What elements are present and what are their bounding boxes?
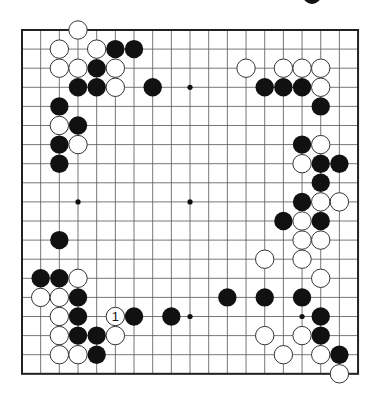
black-stone bbox=[312, 307, 330, 325]
white-stone bbox=[69, 21, 87, 39]
black-stone bbox=[274, 78, 292, 96]
white-stone bbox=[69, 135, 87, 153]
black-stone bbox=[312, 174, 330, 192]
white-stone bbox=[293, 155, 311, 173]
black-stone bbox=[330, 155, 348, 173]
black-stone bbox=[312, 212, 330, 230]
white-stone bbox=[256, 250, 274, 268]
black-stone bbox=[87, 78, 105, 96]
black-stone bbox=[69, 326, 87, 344]
black-stone bbox=[87, 346, 105, 364]
white-stone bbox=[256, 326, 274, 344]
black-stone bbox=[293, 135, 311, 153]
white-stone bbox=[293, 326, 311, 344]
black-stone bbox=[256, 78, 274, 96]
black-stone bbox=[69, 307, 87, 325]
black-stone bbox=[256, 288, 274, 306]
black-stone bbox=[50, 155, 68, 173]
black-stone bbox=[218, 288, 236, 306]
white-stone bbox=[106, 59, 124, 77]
white-stone bbox=[69, 269, 87, 287]
white-stone bbox=[312, 135, 330, 153]
black-stone bbox=[274, 212, 292, 230]
white-stone bbox=[330, 193, 348, 211]
black-stone bbox=[330, 346, 348, 364]
black-stone bbox=[69, 288, 87, 306]
white-stone bbox=[69, 59, 87, 77]
white-stone bbox=[106, 326, 124, 344]
white-stone bbox=[87, 40, 105, 58]
white-stone bbox=[312, 78, 330, 96]
black-stone bbox=[312, 97, 330, 115]
white-stone bbox=[293, 212, 311, 230]
white-stone bbox=[50, 59, 68, 77]
white-stone bbox=[31, 288, 49, 306]
black-stone bbox=[50, 269, 68, 287]
black-stone bbox=[50, 97, 68, 115]
white-stone bbox=[312, 269, 330, 287]
black-stone bbox=[293, 193, 311, 211]
white-stone bbox=[50, 346, 68, 364]
white-stone bbox=[50, 288, 68, 306]
star-point bbox=[187, 199, 192, 204]
star-point bbox=[299, 314, 304, 319]
white-stone bbox=[274, 346, 292, 364]
black-stone bbox=[69, 78, 87, 96]
black-stone bbox=[50, 231, 68, 249]
white-stone bbox=[106, 78, 124, 96]
white-stone bbox=[293, 59, 311, 77]
black-stone bbox=[312, 326, 330, 344]
black-stone bbox=[87, 326, 105, 344]
white-stone bbox=[312, 59, 330, 77]
white-stone bbox=[237, 59, 255, 77]
star-point bbox=[187, 314, 192, 319]
go-board[interactable]: 1 bbox=[0, 0, 379, 403]
black-stone bbox=[125, 307, 143, 325]
move-number-label: 1 bbox=[112, 309, 119, 324]
white-stone bbox=[50, 326, 68, 344]
black-stone bbox=[50, 135, 68, 153]
black-stone bbox=[312, 155, 330, 173]
black-stone bbox=[143, 78, 161, 96]
white-stone bbox=[312, 193, 330, 211]
black-stone bbox=[293, 288, 311, 306]
white-stone bbox=[69, 346, 87, 364]
white-stone bbox=[293, 231, 311, 249]
black-stone bbox=[293, 78, 311, 96]
black-stone bbox=[69, 116, 87, 134]
black-stone bbox=[87, 59, 105, 77]
white-stone bbox=[274, 59, 292, 77]
white-stone bbox=[50, 307, 68, 325]
star-point bbox=[75, 199, 80, 204]
white-stone bbox=[50, 116, 68, 134]
white-stone bbox=[312, 346, 330, 364]
star-point bbox=[187, 85, 192, 90]
black-stone bbox=[125, 40, 143, 58]
white-stone bbox=[293, 250, 311, 268]
black-stone bbox=[162, 307, 180, 325]
white-stone bbox=[312, 231, 330, 249]
black-stone bbox=[31, 269, 49, 287]
white-stone bbox=[330, 365, 348, 383]
black-stone bbox=[106, 40, 124, 58]
white-stone bbox=[50, 40, 68, 58]
